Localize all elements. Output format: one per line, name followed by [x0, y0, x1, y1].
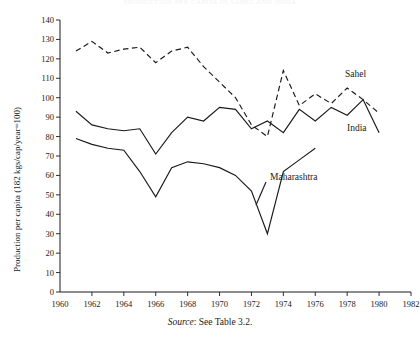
y-tick-label: 60	[46, 170, 55, 180]
y-tick-label: 0	[50, 287, 54, 297]
annotation-india: India	[347, 123, 367, 133]
x-tick-label: 1970	[211, 299, 228, 309]
y-tick-label: 90	[46, 112, 55, 122]
source-text: : See Table 3.2.	[194, 317, 253, 327]
x-tick-label: 1972	[243, 299, 260, 309]
y-tick-label: 80	[46, 132, 55, 142]
series-line-maharashtra	[76, 139, 315, 234]
series-group	[76, 41, 379, 233]
chart-plot: 0102030405060708090100110120130140196019…	[0, 0, 420, 337]
y-tick-label: 70	[46, 151, 55, 161]
y-tick-label: 140	[41, 15, 54, 25]
source-label: Source	[168, 317, 194, 327]
x-tick-label: 1974	[275, 299, 293, 309]
annotation-sahel: Sahel	[345, 69, 366, 79]
maharashtra-leader-line	[256, 182, 266, 205]
y-tick-label: 100	[41, 93, 54, 103]
x-tick-label: 1978	[339, 299, 356, 309]
y-tick-label: 40	[46, 209, 55, 219]
figure-container: PRODUCTION PER CAPITA IN SAHEL AND INDIA…	[0, 0, 420, 337]
series-line-sahel	[76, 41, 379, 136]
y-tick-label: 110	[42, 73, 54, 83]
x-tick-label: 1962	[83, 299, 100, 309]
y-tick-label: 120	[41, 54, 54, 64]
x-tick-label: 1968	[179, 299, 196, 309]
axis-lines	[60, 20, 411, 292]
series-annotations: SahelIndiaMaharashtra	[256, 69, 367, 205]
x-tick-label: 1964	[115, 299, 133, 309]
y-tick-label: 50	[46, 190, 55, 200]
x-tick-label: 1976	[307, 299, 324, 309]
x-tick-label: 1966	[147, 299, 164, 309]
axes-group: 0102030405060708090100110120130140196019…	[41, 15, 419, 309]
x-tick-label: 1982	[403, 299, 420, 309]
annotation-maharashtra: Maharashtra	[270, 172, 318, 182]
source-note: Source: See Table 3.2.	[0, 317, 420, 327]
x-tick-label: 1960	[52, 299, 69, 309]
y-tick-label: 130	[41, 34, 54, 44]
x-tick-label: 1980	[371, 299, 388, 309]
y-tick-label: 20	[46, 248, 55, 258]
y-tick-label: 10	[46, 268, 55, 278]
y-tick-label: 30	[46, 229, 55, 239]
series-line-india	[76, 100, 379, 154]
